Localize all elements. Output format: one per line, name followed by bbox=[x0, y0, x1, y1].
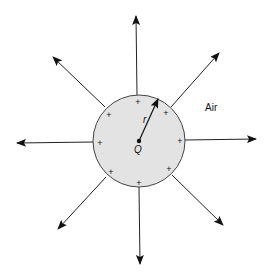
plus-sign: + bbox=[166, 164, 171, 174]
charged-sphere-diagram: ++++++++ r Q Air bbox=[0, 0, 268, 277]
plus-sign: + bbox=[177, 136, 182, 146]
plus-sign: + bbox=[135, 97, 140, 107]
field-line-down-left bbox=[58, 177, 106, 229]
medium-label: Air bbox=[205, 102, 218, 113]
plus-sign: + bbox=[163, 108, 168, 118]
field-line-up bbox=[136, 16, 137, 95]
plus-sign: + bbox=[136, 178, 141, 188]
charge-label: Q bbox=[134, 144, 142, 155]
field-line-down bbox=[139, 187, 140, 264]
plus-sign: + bbox=[106, 110, 111, 120]
field-line-up-right bbox=[171, 53, 219, 107]
field-line-down-right bbox=[172, 175, 223, 225]
field-line-up-left bbox=[53, 57, 105, 107]
field-line-left bbox=[17, 142, 93, 143]
center-point bbox=[137, 139, 141, 143]
field-line-right bbox=[185, 139, 256, 140]
plus-sign: + bbox=[97, 138, 102, 148]
plus-sign: + bbox=[108, 167, 113, 177]
